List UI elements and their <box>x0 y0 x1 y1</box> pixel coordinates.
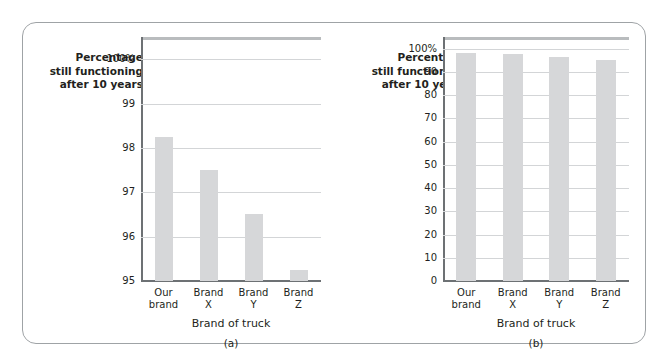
bar <box>596 60 616 281</box>
x-axis-tick-label: Brand X <box>490 287 537 310</box>
y-axis-tick-label: 10 <box>395 253 437 263</box>
y-axis-tick-label: 40 <box>395 183 437 193</box>
x-axis-tick-label: Brand Y <box>231 287 276 310</box>
y-axis-tick-label: 98 <box>93 143 135 153</box>
x-axis-title-b: Brand of truck <box>443 317 629 330</box>
bar <box>456 53 476 281</box>
plot-top-border <box>141 37 321 40</box>
y-axis-tick-label: 80 <box>395 90 437 100</box>
y-axis-label-line-2: still functioning <box>31 65 143 79</box>
figure-root: Percentage still functioning after 10 ye… <box>0 0 668 364</box>
gridline <box>141 104 321 105</box>
y-axis-tick-label: 90 <box>395 67 437 77</box>
y-axis-tick-label: 100% <box>93 54 135 64</box>
y-axis-tick-label: 99 <box>93 99 135 109</box>
y-axis-line <box>443 37 445 281</box>
y-axis-tick-label: 96 <box>93 232 135 242</box>
figure-outer-frame: Percentage still functioning after 10 ye… <box>22 22 646 344</box>
x-axis-tick-label: Our brand <box>443 287 490 310</box>
y-axis-tick-label: 20 <box>395 230 437 240</box>
panel-caption-a: (a) <box>141 337 321 349</box>
bar <box>290 270 308 281</box>
y-axis-tick-label: 50 <box>395 160 437 170</box>
bar <box>549 57 569 281</box>
x-axis-tick-label: Brand X <box>186 287 231 310</box>
y-axis-tick-label: 100% <box>395 44 437 54</box>
panel-caption-b: (b) <box>443 337 629 349</box>
x-axis-tick-label: Brand Y <box>536 287 583 310</box>
bar <box>155 137 173 281</box>
chart-panel-a: Percentage still functioning after 10 ye… <box>23 23 335 345</box>
y-axis-tick-label: 0 <box>395 276 437 286</box>
x-axis-tick-label: Brand Z <box>583 287 630 310</box>
bar <box>503 54 523 281</box>
plot-area-a: 9596979899100%Our brandBrand XBrand YBra… <box>141 37 321 281</box>
y-axis-tick-label: 97 <box>93 187 135 197</box>
y-axis-tick-label: 60 <box>395 137 437 147</box>
x-axis-tick-label: Brand Z <box>276 287 321 310</box>
chart-panel-b: Percentage still functioning after 10 ye… <box>335 23 647 345</box>
y-axis-tick-label: 95 <box>93 276 135 286</box>
gridline <box>141 59 321 60</box>
x-axis-title-a: Brand of truck <box>141 317 321 330</box>
plot-area-b: 0102030405060708090100%Our brandBrand XB… <box>443 37 629 281</box>
bar <box>200 170 218 281</box>
x-axis-tick-label: Our brand <box>141 287 186 310</box>
y-axis-label-line-3: after 10 years <box>31 78 143 92</box>
plot-top-border <box>443 37 629 40</box>
y-axis-line <box>141 37 143 281</box>
gridline <box>443 49 629 50</box>
y-axis-tick-label: 30 <box>395 206 437 216</box>
bar <box>245 214 263 281</box>
y-axis-tick-label: 70 <box>395 113 437 123</box>
